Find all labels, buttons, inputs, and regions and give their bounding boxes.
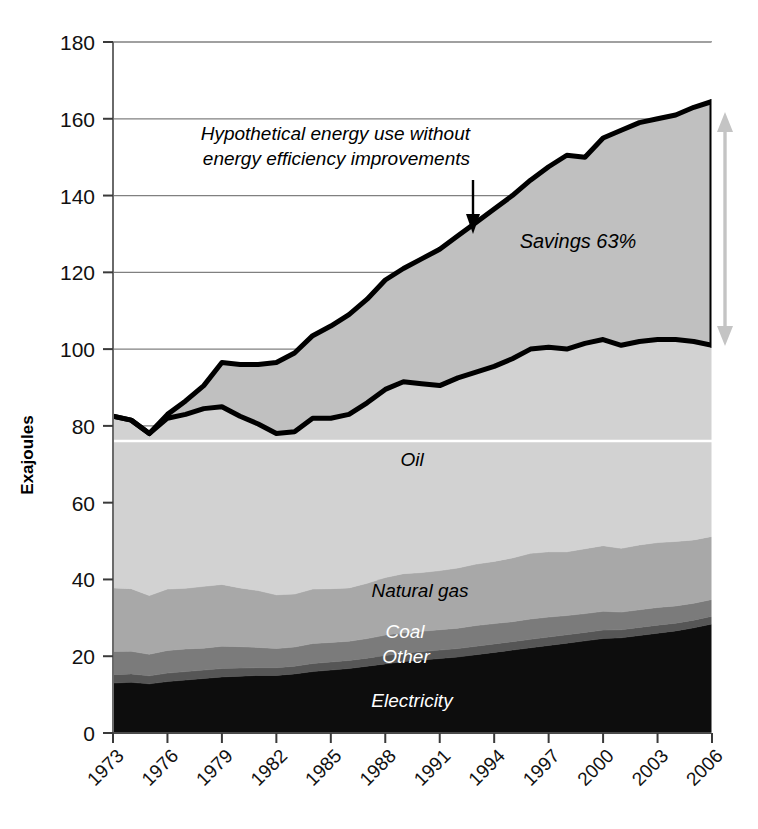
- y-tick-label-60: 60: [72, 492, 95, 515]
- y-tick-label-40: 40: [72, 568, 95, 591]
- y-tick-label-140: 140: [60, 185, 95, 208]
- y-axis-title: Exajoules: [18, 415, 37, 494]
- y-tick-label-20: 20: [72, 645, 95, 668]
- y-tick-label-80: 80: [72, 415, 95, 438]
- y-tick-label-100: 100: [60, 338, 95, 361]
- y-tick-label-160: 160: [60, 108, 95, 131]
- series-label-oil: Oil: [400, 449, 424, 470]
- y-tick-label-0: 0: [83, 722, 95, 745]
- series-label-other: Other: [382, 646, 430, 667]
- series-label-coal: Coal: [385, 621, 425, 642]
- series-label-natural-gas: Natural gas: [371, 580, 469, 601]
- hypothetical-annotation-line1: Hypothetical energy use without: [201, 123, 471, 144]
- y-tick-label-180: 180: [60, 31, 95, 54]
- savings-annotation: Savings 63%: [520, 230, 637, 252]
- hypothetical-annotation-line2: energy efficiency improvements: [203, 148, 471, 169]
- chart-canvas: 020406080100120140160180 197319761979198…: [0, 0, 758, 829]
- y-axis-title-text: Exajoules: [18, 415, 37, 494]
- savings-annotation-text: Savings 63%: [520, 230, 637, 252]
- y-tick-label-120: 120: [60, 261, 95, 284]
- series-label-electricity: Electricity: [371, 690, 454, 711]
- energy-use-chart-figure: 020406080100120140160180 197319761979198…: [0, 0, 758, 829]
